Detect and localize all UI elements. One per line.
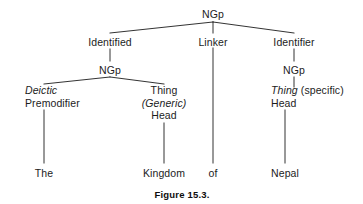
node-label: Identifier (273, 36, 314, 49)
tree-node-thing-specific-head: Thing (specific) Head (271, 84, 344, 109)
edge-leftngp-deictic (44, 77, 110, 84)
edge-root-identified (110, 22, 213, 33)
node-label: Linker (198, 36, 227, 49)
tree-node-identified: Identified (88, 36, 132, 49)
tree-node-identifier: Identifier (273, 36, 314, 49)
node-label-head: Head (271, 97, 344, 110)
edge-leftngp-thing (110, 77, 164, 84)
tree-node-thing-generic-head: Thing (Generic) Head (142, 84, 187, 122)
thing-word: Thing (271, 84, 298, 96)
edge-root-identifier (213, 22, 294, 33)
figure-caption: Figure 15.3. (154, 189, 209, 200)
node-label-deictic: Deictic (25, 84, 80, 97)
tree-node-linker: Linker (198, 36, 227, 49)
node-label: NGp (202, 8, 224, 21)
tree-leaf-of: of (209, 167, 218, 180)
node-label-thing: Thing (142, 84, 187, 97)
node-label-premodifier: Premodifier (25, 97, 80, 110)
tree-leaf-nepal: Nepal (271, 167, 299, 180)
node-label: NGp (283, 64, 305, 77)
leaf-label: of (209, 167, 218, 180)
node-label-thing-specific: Thing (specific) (271, 84, 344, 97)
tree-node-deictic-premodifier: Deictic Premodifier (25, 84, 80, 109)
node-label-head: Head (142, 109, 187, 122)
tree-node-left-ngp: NGp (99, 64, 121, 77)
tree-leaf-the: The (35, 167, 53, 180)
node-label-generic: (Generic) (142, 97, 187, 110)
tree-node-right-ngp: NGp (283, 64, 305, 77)
leaf-label: Kingdom (143, 167, 185, 180)
specific-qualifier: (specific) (298, 84, 344, 96)
node-label: Identified (88, 36, 132, 49)
leaf-label: Nepal (271, 167, 299, 180)
tree-node-root-ngp: NGp (202, 8, 224, 21)
tree-leaf-kingdom: Kingdom (143, 167, 185, 180)
node-label: NGp (99, 64, 121, 77)
leaf-label: The (35, 167, 53, 180)
figure-container: NGp Identified Linker Identifier NGp NGp… (0, 0, 363, 204)
